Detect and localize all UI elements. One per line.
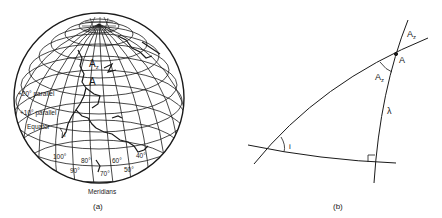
figure-b-caption: (b) xyxy=(333,202,343,211)
parallel-10-label: +10° parallel xyxy=(20,109,57,117)
equator-label: Equator xyxy=(27,123,51,131)
meridian-70-label: 70° xyxy=(100,170,110,177)
point-a-marker xyxy=(394,52,397,55)
meridian-100-label: 100° xyxy=(53,153,67,160)
meridians-axis-label: Meridians xyxy=(88,188,117,195)
globe-point-a-label: A xyxy=(89,76,96,87)
parallel-20-label: +20° parallel xyxy=(18,90,55,98)
globe-figure: A Az +20° parallel +10° parallel Equator… xyxy=(13,13,190,211)
diagram-canvas: A Az +20° parallel +10° parallel Equator… xyxy=(0,0,442,218)
meridian-arc xyxy=(374,20,408,183)
equator-arc xyxy=(248,145,396,163)
triangle-azimuth-top-label: Az xyxy=(407,29,416,40)
triangle-point-a-label: A xyxy=(399,55,405,65)
meridian-80-label: 80° xyxy=(81,157,91,164)
right-angle-marker xyxy=(368,155,375,162)
figure-a-caption: (a) xyxy=(93,202,103,211)
meridian-40-label: 40° xyxy=(136,152,146,159)
meridian-60-label: 60° xyxy=(112,157,122,164)
meridian-50-label: 50° xyxy=(124,166,134,173)
triangle-azimuth-inner-label: Az xyxy=(375,72,384,83)
lambda-label: λ xyxy=(387,106,392,116)
meridian-90-label: 90° xyxy=(70,167,80,174)
globe-azimuth-label: Az xyxy=(89,58,99,70)
spherical-triangle-figure xyxy=(248,20,428,183)
triangle-inclination-label: i xyxy=(289,142,291,151)
